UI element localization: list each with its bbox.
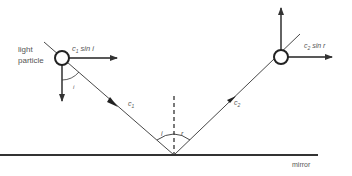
reflected-horizontal-label: c2 sin r	[304, 42, 326, 51]
reflected-speed-label: c2	[234, 99, 241, 108]
light-particle-label-line2: particle	[18, 56, 44, 65]
incident-horizontal-label: c1 sin i	[72, 44, 94, 54]
reflection-diagram: mirror i r c1 c2 i light particle c1 sin…	[0, 0, 352, 176]
mirror-label: mirror	[292, 161, 311, 168]
particle-angle-label: i	[73, 84, 75, 90]
angle-i-label: i	[161, 130, 163, 137]
incident-particle	[55, 51, 69, 65]
reflected-particle	[274, 50, 288, 64]
light-particle-label-line1: light	[18, 45, 33, 54]
particle-angle-arc	[62, 72, 79, 80]
incident-speed-label: c1	[128, 100, 135, 109]
